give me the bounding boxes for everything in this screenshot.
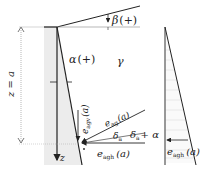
wall-body bbox=[44, 27, 81, 165]
earth-pressure-diagram: β(+) α(+) γ z = a z eagv(a) eag(a) δa δa… bbox=[0, 0, 221, 170]
svg-text:eag(a): eag(a) bbox=[103, 110, 132, 131]
delta-alpha-label: δa+ α bbox=[130, 129, 159, 141]
z-axis-label: z bbox=[59, 153, 65, 163]
beta-label: β(+) bbox=[111, 14, 137, 27]
delta-a-label: δa bbox=[113, 131, 122, 142]
gamma-label: γ bbox=[117, 55, 124, 68]
alpha-label: α(+) bbox=[69, 53, 95, 66]
e-agv-label: eagv(a) bbox=[80, 104, 92, 134]
e-agh-label: eagh(a) bbox=[97, 148, 130, 161]
depth-label: z = a bbox=[5, 71, 16, 98]
svg-text:eagv(a): eagv(a) bbox=[80, 104, 92, 134]
e-ag-label: eag(a) bbox=[103, 110, 132, 131]
pressure-distribution bbox=[165, 27, 196, 165]
